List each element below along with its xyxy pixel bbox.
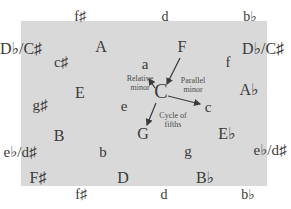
label-cycle-of-fifths: Cycle of fifths — [159, 111, 186, 129]
key-B: B — [54, 128, 65, 144]
key-D: D — [117, 170, 129, 186]
key-F: F — [178, 39, 187, 55]
key-b-flat-bottom: b♭ — [241, 188, 255, 202]
key-E-flat: E♭ — [218, 126, 235, 142]
key-G: G — [137, 126, 149, 142]
key-d-flat-c-sharp-left: D♭/C♯ — [0, 41, 42, 57]
key-f-sharp-bottom: f♯ — [75, 188, 87, 202]
key-b: b — [99, 145, 107, 160]
key-c-minor: c — [205, 100, 212, 115]
key-g-sharp: g♯ — [33, 98, 48, 113]
arrow-c-to-g — [147, 103, 156, 125]
key-e: e — [121, 99, 128, 114]
key-E: E — [75, 85, 85, 101]
key-g: g — [184, 144, 192, 159]
label-relative-minor: Relative minor — [127, 74, 154, 92]
key-d-top: d — [162, 10, 169, 24]
key-e-flat-d-sharp-left: e♭/d♯ — [4, 145, 37, 160]
key-f: f — [226, 55, 231, 70]
key-a: a — [142, 57, 149, 72]
key-B-flat: B♭ — [196, 170, 214, 186]
key-A: A — [95, 39, 107, 55]
key-d-bottom: d — [161, 188, 168, 202]
key-F-sharp: F♯ — [30, 170, 47, 186]
key-f-sharp-top: f♯ — [74, 10, 86, 24]
key-e-flat-d-sharp-right: e♭/d♯ — [254, 143, 287, 158]
arrow-c-to-c-minor — [168, 96, 200, 104]
key-b-flat-top: b♭ — [243, 10, 257, 24]
key-C: C — [154, 81, 167, 101]
key-d-flat-c-sharp-right: D♭/C♯ — [242, 41, 284, 57]
key-A-flat: A♭ — [239, 82, 258, 98]
arrow-f-to-c — [167, 58, 180, 84]
key-c-sharp: c♯ — [54, 55, 68, 70]
label-parallel-minor: Parallel minor — [181, 76, 205, 94]
